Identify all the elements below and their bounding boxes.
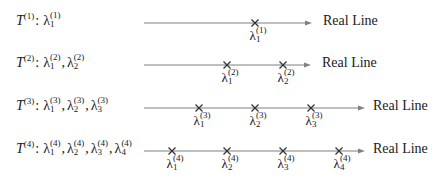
- eigenvalue-mark-label: λ(3)3: [306, 113, 323, 131]
- matrix-symbol: T: [16, 13, 24, 28]
- index-stack: (2)2: [74, 53, 85, 71]
- mark-lambda-3: λ(4)3: [278, 156, 295, 171]
- lambda-symbol: λ: [43, 98, 50, 113]
- subscript-index: 1: [50, 20, 61, 29]
- eigenvalue-mark-label: λ(1)1: [250, 28, 267, 46]
- real-line-label: Real Line: [322, 56, 377, 70]
- index-stack: (4)1: [173, 154, 184, 172]
- subscript-index: 1: [228, 77, 239, 86]
- label-lambda-3: λ(3)3: [91, 98, 108, 113]
- eigenvalue-mark-label: λ(3)2: [250, 113, 267, 131]
- index-stack: (1)1: [256, 26, 267, 44]
- index-stack: (3)1: [50, 96, 61, 114]
- subscript-index: 3: [98, 105, 109, 114]
- label-lambda-1: λ(3)1: [43, 98, 60, 113]
- arrowhead-icon: [358, 106, 365, 111]
- comma: ,: [109, 141, 113, 156]
- matrix-index: (2): [24, 53, 35, 63]
- subscript-index: 1: [50, 105, 61, 114]
- label-lambda-1: λ(2)1: [43, 55, 60, 70]
- mark-lambda-1: λ(4)1: [167, 156, 184, 171]
- subscript-index: 1: [173, 163, 184, 172]
- index-stack: (3)2: [74, 96, 85, 114]
- index-stack: (4)3: [98, 139, 109, 157]
- eigenvalue-mark-label: λ(3)1: [194, 113, 211, 131]
- comma: ,: [85, 98, 89, 113]
- subscript-index: 1: [50, 62, 61, 71]
- subscript-index: 1: [200, 120, 211, 129]
- index-stack: (3)3: [312, 111, 323, 129]
- label-lambda-1: λ(4)1: [43, 141, 60, 156]
- comma: ,: [85, 141, 89, 156]
- subscript-index: 4: [340, 163, 351, 172]
- subscript-index: 2: [74, 62, 85, 71]
- lambda-symbol: λ: [43, 13, 50, 28]
- colon: :: [35, 13, 39, 28]
- eigenvalue-mark-label: λ(4)3: [278, 156, 295, 174]
- subscript-index: 3: [98, 148, 109, 157]
- label-lambda-1: λ(1)1: [43, 13, 60, 28]
- index-stack: (4)3: [284, 154, 295, 172]
- subscript-index: 2: [74, 105, 85, 114]
- index-stack: (3)3: [98, 96, 109, 114]
- matrix-symbol: T: [16, 55, 24, 70]
- mark-lambda-2: λ(3)2: [250, 113, 267, 128]
- arrowhead-icon: [305, 21, 312, 26]
- subscript-index: 1: [50, 148, 61, 157]
- eigenvalue-mark-label: λ(2)1: [222, 70, 239, 88]
- mark-lambda-1: λ(2)1: [222, 70, 239, 85]
- matrix-symbol: T: [16, 141, 24, 156]
- mark-lambda-2: λ(4)2: [222, 156, 239, 171]
- index-stack: (2)1: [50, 53, 61, 71]
- comma: ,: [61, 141, 65, 156]
- colon: :: [35, 98, 39, 113]
- label-lambda-4: λ(4)4: [115, 141, 132, 156]
- row-label-1: T(1):λ(1)1: [16, 13, 60, 31]
- arrowhead-icon: [304, 63, 311, 68]
- mark-lambda-1: λ(1)1: [250, 28, 267, 43]
- index-stack: (2)1: [228, 68, 239, 86]
- comma: ,: [61, 55, 65, 70]
- mark-lambda-2: λ(2)2: [278, 70, 295, 85]
- eigenvalue-mark-label: λ(4)4: [334, 156, 351, 174]
- eigenvalue-mark-label: λ(4)1: [167, 156, 184, 174]
- colon: :: [35, 141, 39, 156]
- subscript-index: 1: [256, 35, 267, 44]
- lambda-symbol: λ: [67, 98, 74, 113]
- lambda-symbol: λ: [91, 141, 98, 156]
- real-line-label: Real Line: [373, 142, 428, 156]
- subscript-index: 2: [256, 120, 267, 129]
- index-stack: (1)1: [50, 11, 61, 29]
- index-stack: (4)2: [228, 154, 239, 172]
- matrix-index: (1): [24, 11, 35, 21]
- index-stack: (3)2: [256, 111, 267, 129]
- matrix-index: (4): [24, 139, 35, 149]
- mark-lambda-1: λ(3)1: [194, 113, 211, 128]
- subscript-index: 3: [284, 163, 295, 172]
- label-lambda-2: λ(2)2: [67, 55, 84, 70]
- mark-lambda-4: λ(4)4: [334, 156, 351, 171]
- lambda-symbol: λ: [43, 141, 50, 156]
- colon: :: [35, 55, 39, 70]
- label-lambda-3: λ(4)3: [91, 141, 108, 156]
- arrowhead-icon: [358, 149, 365, 154]
- index-stack: (4)4: [121, 139, 132, 157]
- matrix-symbol: T: [16, 98, 24, 113]
- comma: ,: [61, 98, 65, 113]
- subscript-index: 2: [228, 163, 239, 172]
- matrix-index: (3): [24, 96, 35, 106]
- index-stack: (4)2: [74, 139, 85, 157]
- subscript-index: 3: [312, 120, 323, 129]
- subscript-index: 4: [121, 148, 132, 157]
- index-stack: (4)4: [340, 154, 351, 172]
- lambda-symbol: λ: [67, 141, 74, 156]
- index-stack: (4)1: [50, 139, 61, 157]
- lambda-symbol: λ: [91, 98, 98, 113]
- label-lambda-2: λ(4)2: [67, 141, 84, 156]
- eigenvalue-mark-label: λ(4)2: [222, 156, 239, 174]
- real-line-label: Real Line: [323, 14, 378, 28]
- mark-lambda-3: λ(3)3: [306, 113, 323, 128]
- row-label-2: T(2):λ(2)1,λ(2)2: [16, 55, 84, 73]
- eigenvalue-mark-label: λ(2)2: [278, 70, 295, 88]
- index-stack: (2)2: [284, 68, 295, 86]
